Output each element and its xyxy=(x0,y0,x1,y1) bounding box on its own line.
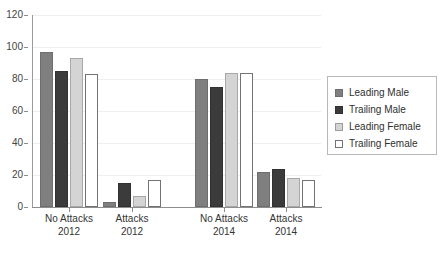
y-tick-label: 40 xyxy=(12,138,23,148)
legend-item-label: Leading Male xyxy=(349,87,409,98)
legend-swatch-icon xyxy=(335,106,343,114)
legend-swatch-icon xyxy=(335,140,343,148)
y-tick-label: 20 xyxy=(12,170,23,180)
plot-area xyxy=(33,15,321,207)
y-tick-label: 100 xyxy=(6,42,23,52)
y-tick-mark xyxy=(24,143,28,144)
bar xyxy=(118,183,131,207)
bar xyxy=(287,178,300,207)
bar xyxy=(210,87,223,207)
bar xyxy=(195,79,208,207)
x-label-line-2: 2014 xyxy=(241,225,331,238)
legend-swatch-icon xyxy=(335,123,343,131)
x-label-line-2: 2012 xyxy=(87,225,177,238)
x-label-line-1: Attacks xyxy=(87,212,177,225)
legend-item-label: Trailing Male xyxy=(349,104,406,115)
x-axis-category-label: Attacks2014 xyxy=(241,212,331,238)
y-tick-mark xyxy=(24,47,28,48)
y-tick-label: 80 xyxy=(12,74,23,84)
gridline xyxy=(33,47,321,48)
bar xyxy=(225,73,238,207)
bar xyxy=(40,52,53,207)
legend-item[interactable]: Trailing Male xyxy=(335,101,436,118)
x-axis-category-label: Attacks2012 xyxy=(87,212,177,238)
y-tick-mark xyxy=(24,15,28,16)
bar xyxy=(240,73,253,207)
bar-chart: 020406080100120 Leading Male Trailing Ma… xyxy=(0,0,443,257)
y-tick-label: 0 xyxy=(17,202,23,212)
legend-swatch-icon xyxy=(335,89,343,97)
x-axis-line xyxy=(32,207,322,208)
y-tick-label: 60 xyxy=(12,106,23,116)
legend-item[interactable]: Trailing Female xyxy=(335,135,436,152)
legend-item-label: Trailing Female xyxy=(349,138,418,149)
legend-item-label: Leading Female xyxy=(349,121,421,132)
y-tick-mark xyxy=(24,111,28,112)
y-tick-mark xyxy=(24,79,28,80)
bar xyxy=(85,74,98,207)
bar xyxy=(272,169,285,207)
x-label-line-1: Attacks xyxy=(241,212,331,225)
bar xyxy=(55,71,68,207)
legend-item[interactable]: Leading Male xyxy=(335,84,436,101)
legend-item[interactable]: Leading Female xyxy=(335,118,436,135)
chart-legend: Leading Male Trailing Male Leading Femal… xyxy=(327,76,437,155)
bar xyxy=(133,196,146,207)
y-tick-mark xyxy=(24,207,28,208)
y-tick-label: 120 xyxy=(6,10,23,20)
bar xyxy=(70,58,83,207)
y-tick-mark xyxy=(24,175,28,176)
gridline xyxy=(33,15,321,16)
bar xyxy=(302,180,315,207)
bar xyxy=(148,180,161,207)
bar xyxy=(257,172,270,207)
